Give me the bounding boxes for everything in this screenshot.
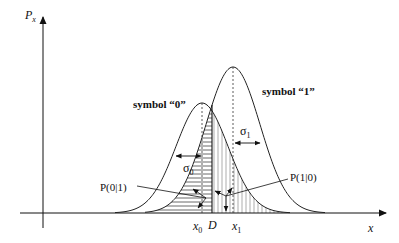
y-axis-label: Px [24,8,36,24]
d-label: D [207,218,217,232]
symbol-1-label: symbol “1” [262,85,315,97]
sigma1-label: σ1 [240,124,250,140]
x-axis-label: x [367,221,374,235]
diagram-canvas: Px x σ0 σ1 symbol “0” symbol “1” x0 D x1… [0,0,399,243]
sigma0-label: σ0 [183,161,193,177]
x0-label: x0 [192,219,202,235]
symbol-0-label: symbol “0” [133,98,186,110]
region-p1-given-0 [212,111,290,213]
x1-label: x1 [231,219,241,235]
p1-given-0-label: P(1|0) [290,171,317,184]
p0-given-1-label: P(0|1) [100,181,127,194]
